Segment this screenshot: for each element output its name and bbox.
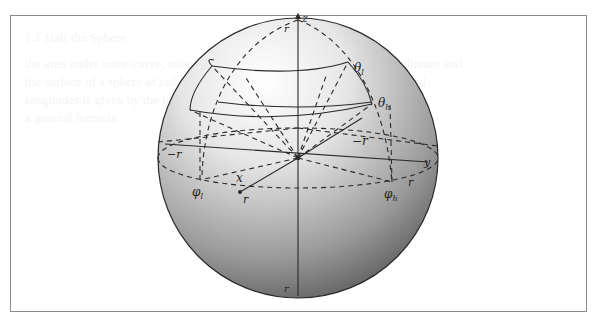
r-front-label: r xyxy=(243,193,249,206)
neg-r-left-label: −r xyxy=(167,148,182,161)
origin-point xyxy=(296,156,300,160)
z-axis-label: z xyxy=(301,12,308,25)
r-right-label: r xyxy=(408,176,414,189)
x-axis-label: x xyxy=(236,171,243,185)
y-axis-label: y xyxy=(423,156,431,169)
r-point xyxy=(238,190,242,194)
sphere-diagram: z r θl θh −r −r x y r r φl φh r xyxy=(0,0,600,316)
neg-r-right-label: −r xyxy=(352,134,369,148)
